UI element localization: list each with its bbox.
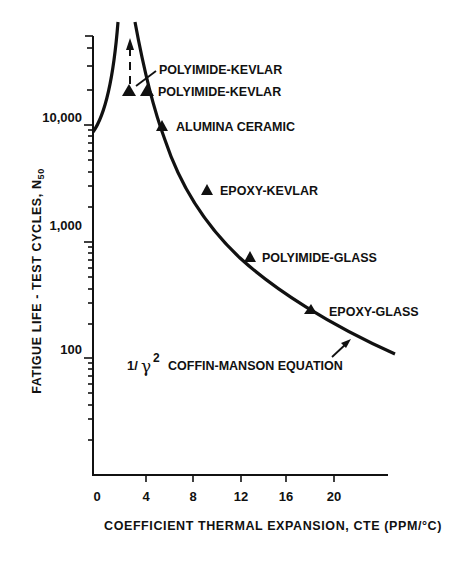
point-polyimide-kevlar-1	[122, 84, 136, 96]
curve-left-branch	[93, 22, 118, 132]
x-tick-label-0: 0	[93, 489, 100, 504]
label-epoxy-kevlar: EPOXY-KEVLAR	[220, 184, 318, 198]
label-polyimide-kevlar-2: POLYIMIDE-KEVLAR	[158, 85, 281, 99]
equation-exponent: 2	[153, 351, 160, 365]
data-points	[122, 84, 317, 314]
x-tick-label-8: 8	[189, 489, 196, 504]
equation-prefix: 1/	[127, 358, 138, 373]
label-polyimide-glass: POLYIMIDE-GLASS	[262, 251, 377, 265]
label-polyimide-kevlar-1: POLYIMIDE-KEVLAR	[159, 63, 282, 77]
equation-label: 1/ γ 2 COFFIN-MANSON EQUATION	[127, 351, 343, 376]
label-epoxy-glass: EPOXY-GLASS	[329, 305, 419, 319]
y-tick-label-10000: 10,000	[42, 110, 82, 125]
label-alumina-ceramic: ALUMINA CERAMIC	[176, 120, 295, 134]
point-polyimide-glass	[244, 251, 256, 262]
gamma-symbol: γ	[141, 356, 151, 376]
y-tick-label-100: 100	[60, 342, 82, 357]
x-axis-title: COEFFICIENT THERMAL EXPANSION, CTE (PPM/…	[104, 519, 442, 533]
x-tick-label-16: 16	[279, 489, 293, 504]
y-axis-title: FATIGUE LIFE - TEST CYCLES, N50	[30, 168, 46, 394]
y-axis-subscript: 50	[36, 168, 46, 179]
point-polyimide-kevlar-2	[140, 84, 154, 96]
x-tick-label-12: 12	[234, 489, 248, 504]
x-ticks	[146, 475, 334, 482]
equation-arrow	[332, 339, 351, 357]
x-tick-label-20: 20	[327, 489, 341, 504]
y-ticks	[84, 36, 93, 440]
x-tick-label-4: 4	[142, 489, 150, 504]
equation-text: COFFIN-MANSON EQUATION	[168, 359, 343, 373]
point-epoxy-kevlar	[201, 184, 213, 195]
y-tick-label-1000: 1,000	[49, 218, 82, 233]
dashed-up-arrow	[126, 38, 134, 84]
y-axis-title-group: FATIGUE LIFE - TEST CYCLES, N50	[30, 168, 46, 394]
chart: 10,000 1,000 100 0 4 8 12 16 20 FATIGUE …	[0, 0, 474, 562]
